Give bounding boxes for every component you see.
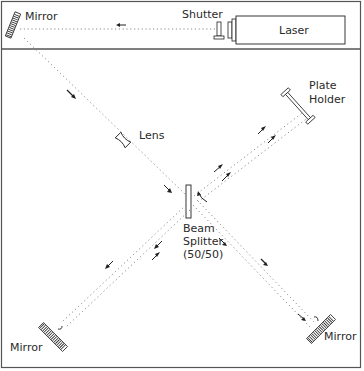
arrow-up-right-4 (268, 135, 276, 143)
arrow-down-right-5 (298, 314, 306, 321)
beam-splitter-to-plate-a (194, 110, 306, 196)
label-beam-splitter-2: Splitter (183, 235, 223, 248)
arrow-return-bl (58, 326, 62, 329)
arrow-left-top (116, 23, 126, 27)
shutter (214, 22, 224, 39)
arrow-up-right-2 (222, 172, 231, 181)
label-plate-holder-1: Plate (309, 79, 337, 92)
beam-splitter-to-mirror-right-b (197, 200, 314, 322)
label-shutter: Shutter (182, 8, 223, 21)
arrow-up-right-1 (214, 164, 223, 172)
arrow-down-left-1 (154, 241, 162, 249)
arrow-return-br (314, 317, 318, 321)
beam-splitter-to-mirror-left-b (66, 210, 190, 327)
arrow-down-left-2 (105, 261, 113, 269)
label-lens: Lens (139, 129, 165, 142)
label-mirror-bottom-left: Mirror (10, 341, 43, 354)
arrow-down-right-1 (67, 90, 76, 99)
beam-mirror-to-splitter (24, 38, 186, 195)
beam-splitter-to-mirror-right-a (193, 205, 310, 327)
holography-diagram: Mirror Shutter Laser Lens Beam Splitter … (0, 0, 364, 371)
arrow-up-right-5 (152, 252, 160, 260)
beam-splitter-to-mirror-left-a (62, 205, 186, 322)
arrow-up-right-3 (258, 126, 266, 134)
beam-splitter-to-plate-b (198, 116, 310, 202)
arrow-down-right-2 (164, 185, 172, 193)
mirror-bottom-left (39, 323, 68, 352)
label-mirror-bottom-right: Mirror (324, 330, 357, 343)
lens (115, 132, 131, 148)
arrow-down-right-4 (261, 259, 268, 266)
label-plate-holder-2: Holder (309, 93, 346, 106)
label-laser: Laser (279, 24, 309, 37)
label-mirror-top: Mirror (25, 10, 58, 23)
outer-frame (2, 2, 361, 368)
label-beam-splitter-3: (50/50) (183, 248, 223, 261)
label-beam-splitter-1: Beam (183, 222, 215, 235)
mirror-top (5, 12, 20, 38)
